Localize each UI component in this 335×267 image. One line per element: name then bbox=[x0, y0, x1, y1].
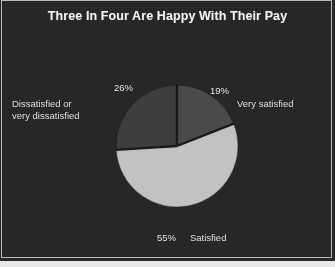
slice-label-very-satisfied: Very satisfied bbox=[237, 98, 327, 110]
slice-value-very-satisfied: 19% bbox=[210, 85, 229, 96]
figure-bottom-strip bbox=[0, 261, 335, 267]
pie-slice bbox=[116, 85, 177, 150]
pie-chart-svg bbox=[0, 0, 335, 267]
slice-label-satisfied: Satisfied bbox=[190, 232, 270, 244]
chart-title: Three In Four Are Happy With Their Pay bbox=[0, 9, 335, 23]
slice-label-dissatisfied: Dissatisfied or very dissatisfied bbox=[12, 98, 118, 122]
slice-value-dissatisfied: 26% bbox=[114, 82, 133, 93]
slice-value-satisfied: 55% bbox=[157, 232, 176, 243]
pie-chart-figure: Three In Four Are Happy With Their Pay D… bbox=[0, 0, 335, 267]
